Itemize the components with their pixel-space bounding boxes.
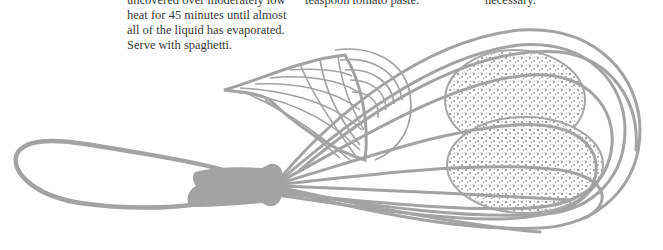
whisk-illustration <box>0 0 663 250</box>
leaf <box>224 49 411 160</box>
whisk-grip <box>188 164 284 207</box>
